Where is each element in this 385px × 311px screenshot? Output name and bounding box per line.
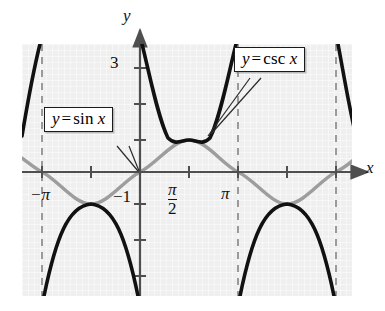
csc-callout-lhs: y xyxy=(242,49,250,68)
x-tick-label-neg-pi: −π xyxy=(30,185,50,205)
sin-callout-fn: sin xyxy=(73,109,93,128)
csc-callout-fn: csc xyxy=(263,49,285,68)
csc-branch-left-upper xyxy=(22,44,40,136)
csc-branch-right-upper xyxy=(338,44,356,136)
x-tick-label-pi: π xyxy=(221,184,230,204)
csc-branch-pi-to-two-pi xyxy=(240,204,334,296)
csc-function-callout: y=csc x xyxy=(234,47,305,72)
sin-function-callout: y=sin x xyxy=(44,107,113,132)
pi-half-numerator: π xyxy=(168,181,177,198)
pi-half-denominator: 2 xyxy=(168,200,177,218)
callout-leader-lines xyxy=(117,78,261,171)
axis-group xyxy=(22,30,368,296)
leader-csc-a xyxy=(208,78,250,136)
csc-callout-arg: x xyxy=(290,49,298,68)
y-axis-label: y xyxy=(123,6,131,26)
csc-callout-equals: = xyxy=(250,49,264,68)
y-tick-label-neg-1: −1 xyxy=(113,187,131,207)
csc-branch-neg-pi-to-0 xyxy=(44,204,138,296)
x-tick-label-pi-over-2: π 2 xyxy=(168,181,177,218)
leader-csc-b xyxy=(211,78,261,134)
y-tick-label-3: 3 xyxy=(110,53,119,73)
plot-canvas xyxy=(0,0,385,311)
leader-sin-a xyxy=(117,146,138,171)
csc-branch-0-to-pi xyxy=(142,44,236,142)
sin-callout-lhs: y xyxy=(52,109,60,128)
function-graph-figure: y=sin x y=csc x y x 3 −1 −π π π 2 xyxy=(0,0,385,311)
x-axis-label: x xyxy=(366,158,374,178)
sin-callout-arg: x xyxy=(98,109,106,128)
leader-sin-b xyxy=(129,146,139,171)
sin-callout-equals: = xyxy=(60,109,74,128)
